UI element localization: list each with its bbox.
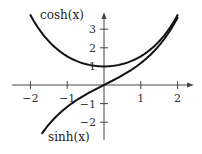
y-tick-label: −1 bbox=[80, 98, 96, 111]
y-tick-label: 1 bbox=[89, 60, 96, 73]
y-tick-label: 3 bbox=[89, 23, 96, 36]
chart: −2−112321−1−2 cosh(x) sinh(x) bbox=[0, 0, 202, 154]
sinh-curve bbox=[42, 18, 177, 134]
x-tick-label: −2 bbox=[22, 92, 38, 105]
x-tick-label: 1 bbox=[137, 92, 144, 105]
sinh-label: sinh(x) bbox=[48, 130, 90, 144]
y-tick-label: −2 bbox=[80, 116, 96, 129]
y-tick-label: 2 bbox=[89, 42, 96, 55]
x-tick-label: 2 bbox=[174, 92, 181, 105]
x-axis-arrow bbox=[187, 83, 194, 88]
y-axis-arrow bbox=[102, 12, 107, 19]
cosh-label: cosh(x) bbox=[40, 8, 84, 22]
